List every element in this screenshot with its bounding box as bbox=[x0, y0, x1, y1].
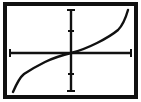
plot-area bbox=[7, 6, 134, 95]
graph-canvas bbox=[7, 6, 134, 95]
graph-frame bbox=[3, 2, 138, 99]
screenshot-root bbox=[0, 0, 141, 102]
